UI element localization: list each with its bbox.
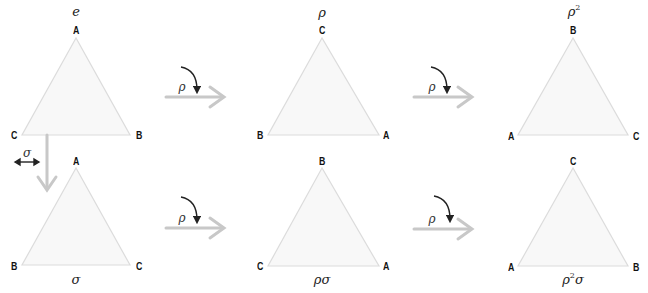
vertex-label-right: A [382,260,389,272]
vertex-label-top: A [72,155,79,167]
triangle-rho [268,38,379,135]
vertex-label-top: C [569,155,576,167]
vertex-label-top: C [318,24,325,36]
vertex-label-left: B [10,260,17,272]
element-label-rho2sigma: ρ2σ [562,271,584,286]
vertex-label-left: B [256,129,263,141]
rotation-arrow-icon [434,196,450,219]
arrow-label-rho: ρ [178,80,185,94]
element-label-sigma: σ [72,272,81,287]
arrow-label-rho: ρ [428,212,435,226]
vertex-label-left: A [507,130,514,142]
triangle-rho2sigma [518,168,628,266]
element-label-e: e [72,4,80,19]
vertex-label-left: C [10,129,17,141]
action-arrow-bottom-1 [166,218,224,238]
triangle-rho2 [518,38,628,135]
action-arrow-top-2 [414,87,472,107]
arrow-label-rho: ρ [178,211,185,225]
element-label-rho: ρ [318,5,326,20]
vertex-label-right: C [632,130,639,142]
triangle-rhosigma [268,168,379,266]
vertex-label-top: A [72,24,79,36]
vertex-label-right: A [382,129,389,141]
vertex-label-right: B [135,129,142,141]
arrow-label-rho: ρ [428,80,435,94]
vertex-label-left: A [507,261,514,273]
arrow-label-sigma: σ [23,146,31,160]
triangle-e [22,38,130,135]
vertex-label-right: B [632,261,639,273]
diagram-canvas [0,0,648,293]
element-label-rhosigma: ρσ [314,272,331,287]
vertex-label-right: C [135,260,142,272]
triangle-sigma [22,168,130,265]
action-arrow-top-1 [166,87,224,107]
action-arrow-bottom-2 [414,219,472,239]
vertex-label-top: B [569,24,576,36]
element-label-rho2: ρ2 [568,3,581,18]
vertex-label-top: B [318,155,325,167]
action-arrow-down [38,135,56,190]
vertex-label-left: C [256,260,263,272]
